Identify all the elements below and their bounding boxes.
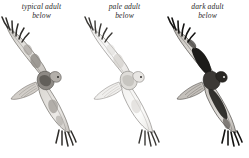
right-wing bbox=[39, 84, 76, 146]
left-wing bbox=[168, 17, 213, 74]
body bbox=[120, 71, 144, 89]
primary-fingers-lower bbox=[56, 130, 76, 146]
body bbox=[37, 71, 61, 89]
caption-line-2: below bbox=[0, 11, 83, 20]
figure-dark-adult: dark adult below bbox=[166, 0, 249, 158]
eye-icon bbox=[57, 76, 59, 78]
right-wing bbox=[205, 84, 242, 146]
figure-caption-pale-adult: pale adult below bbox=[83, 2, 166, 20]
tail bbox=[177, 82, 205, 99]
left-wing bbox=[85, 17, 130, 74]
primary-fingers-lower bbox=[222, 130, 242, 146]
primary-fingers-lower bbox=[139, 130, 159, 146]
figure-caption-dark-adult: dark adult below bbox=[166, 2, 249, 20]
caption-line-1: dark adult bbox=[191, 2, 223, 11]
eye-icon bbox=[140, 76, 142, 78]
hawk-illustration-dark-adult bbox=[166, 0, 249, 158]
figure-pale-adult: pale adult below bbox=[83, 0, 166, 158]
figure-typical-adult: typical adult below bbox=[0, 0, 83, 158]
right-wing bbox=[122, 84, 159, 146]
tail bbox=[11, 82, 39, 99]
caption-line-2: below bbox=[166, 11, 249, 20]
caption-line-1: typical adult bbox=[22, 2, 61, 11]
caption-line-2: below bbox=[83, 11, 166, 20]
left-wing bbox=[2, 17, 47, 74]
patagial-mark bbox=[192, 48, 211, 74]
body bbox=[203, 71, 227, 89]
eye-icon bbox=[223, 76, 225, 78]
illustration-plate: typical adult below bbox=[0, 0, 249, 158]
tail bbox=[94, 82, 122, 99]
caption-line-1: pale adult bbox=[109, 2, 141, 11]
hawk-illustration-pale-adult bbox=[83, 0, 166, 158]
hawk-illustration-typical-adult bbox=[0, 0, 83, 158]
figure-caption-typical-adult: typical adult below bbox=[0, 2, 83, 20]
